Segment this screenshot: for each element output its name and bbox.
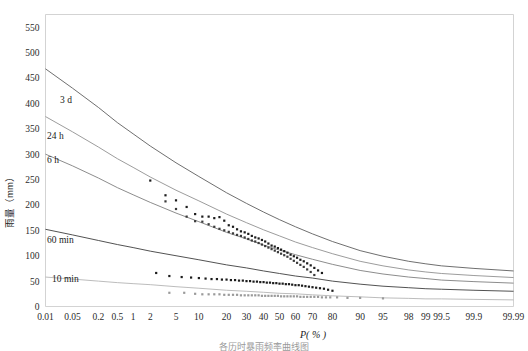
data-point xyxy=(290,254,292,256)
y-tick-label: 300 xyxy=(25,150,40,160)
data-point xyxy=(313,296,315,298)
data-point xyxy=(275,282,277,284)
data-point xyxy=(280,253,282,255)
data-point xyxy=(264,295,266,297)
data-point xyxy=(306,262,308,264)
x-tick-label: 98 xyxy=(404,312,414,322)
data-point xyxy=(245,280,247,282)
data-point xyxy=(247,294,249,296)
data-point xyxy=(274,245,276,247)
y-tick-label: 500 xyxy=(25,48,40,58)
data-point xyxy=(223,220,225,222)
data-point xyxy=(274,295,276,297)
x-tick-label: 99.9 xyxy=(466,312,483,322)
data-point xyxy=(264,245,266,247)
data-point xyxy=(213,226,215,228)
data-point xyxy=(267,246,269,248)
data-point xyxy=(331,290,333,292)
x-tick-label: 95 xyxy=(378,312,388,322)
data-point xyxy=(306,268,308,270)
data-point xyxy=(244,236,246,238)
y-tick-label: 200 xyxy=(25,200,40,210)
data-point xyxy=(261,243,263,245)
y-tick-label: 100 xyxy=(25,251,40,261)
data-point xyxy=(283,254,285,256)
data-point xyxy=(252,281,254,283)
data-point xyxy=(298,284,300,286)
series-label: 3 d xyxy=(60,95,72,105)
data-point xyxy=(247,233,249,235)
x-axis-title: P( % ) xyxy=(299,329,327,341)
data-point xyxy=(325,296,327,298)
data-point xyxy=(270,295,272,297)
x-tick-label: 0.2 xyxy=(92,312,104,322)
data-point xyxy=(251,239,253,241)
data-point xyxy=(301,285,303,287)
data-point xyxy=(149,179,151,181)
data-point xyxy=(175,199,177,201)
data-point xyxy=(262,281,264,283)
data-point xyxy=(218,293,220,295)
data-point xyxy=(274,250,276,252)
data-point xyxy=(181,276,183,278)
data-point xyxy=(249,280,251,282)
data-point xyxy=(269,282,271,284)
data-point xyxy=(232,226,234,228)
data-point xyxy=(280,295,282,297)
y-tick-label: 550 xyxy=(25,23,40,33)
data-point xyxy=(232,232,234,234)
data-point xyxy=(186,206,188,208)
data-point xyxy=(283,250,285,252)
data-point xyxy=(359,297,361,299)
y-tick-label: 400 xyxy=(25,99,40,109)
data-point xyxy=(228,224,230,226)
data-point xyxy=(236,228,238,230)
data-point xyxy=(313,267,315,269)
data-point xyxy=(310,264,312,266)
data-point xyxy=(270,244,272,246)
data-point xyxy=(201,216,203,218)
data-point xyxy=(319,287,321,289)
data-point xyxy=(303,260,305,262)
data-point xyxy=(310,271,312,273)
data-point xyxy=(223,229,225,231)
data-point xyxy=(204,277,206,279)
data-point xyxy=(208,293,210,295)
x-tick-label: 40 xyxy=(259,312,269,322)
data-point xyxy=(317,296,319,298)
data-point xyxy=(225,278,227,280)
data-point xyxy=(168,275,170,277)
data-point xyxy=(277,295,279,297)
data-point xyxy=(201,293,203,295)
figure-caption: 各历时暴雨频率曲线图 xyxy=(219,341,309,351)
data-point xyxy=(261,239,263,241)
data-point xyxy=(258,237,260,239)
data-point xyxy=(254,294,256,296)
x-tick-label: 60 xyxy=(291,312,301,322)
data-point xyxy=(293,255,295,257)
x-tick-label: 70 xyxy=(308,312,318,322)
data-point xyxy=(317,269,319,271)
data-point xyxy=(346,297,348,299)
data-point xyxy=(277,247,279,249)
data-point xyxy=(288,283,290,285)
data-point xyxy=(258,294,260,296)
data-point xyxy=(283,295,285,297)
data-point xyxy=(286,256,288,258)
data-point xyxy=(299,296,301,298)
data-point xyxy=(306,296,308,298)
data-point xyxy=(175,208,177,210)
data-point xyxy=(264,240,266,242)
data-point xyxy=(321,272,323,274)
y-tick-label: 350 xyxy=(25,124,40,134)
data-point xyxy=(155,272,157,274)
x-tick-label: 99.5 xyxy=(433,312,450,322)
data-point xyxy=(313,274,315,276)
data-point xyxy=(244,294,246,296)
x-tick-label: 99.99 xyxy=(503,312,525,322)
y-tick-label: 250 xyxy=(25,175,40,185)
data-point xyxy=(282,283,284,285)
data-point xyxy=(238,280,240,282)
x-tick-label: 5 xyxy=(174,312,179,322)
data-point xyxy=(201,221,203,223)
